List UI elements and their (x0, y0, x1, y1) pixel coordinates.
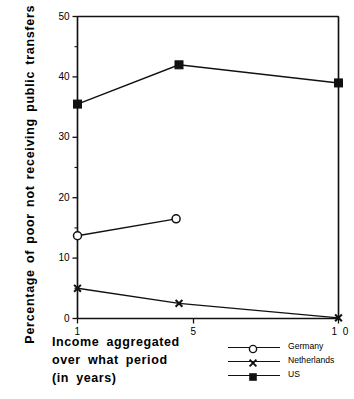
x-axis-label-line: over what period (52, 351, 232, 369)
legend-label: Netherlands (288, 356, 334, 365)
filled-square-marker (175, 61, 183, 69)
legend-label: US (288, 370, 300, 379)
x-cross-icon (247, 357, 259, 369)
filled-square-icon (247, 371, 259, 383)
series-line-germany (78, 219, 177, 236)
open-circle-marker (172, 215, 180, 223)
x-axis-label: Income aggregated over what period (in y… (52, 333, 232, 387)
filled-square-marker (74, 100, 82, 108)
series-line-netherlands (78, 288, 339, 318)
series-line-us (78, 65, 339, 104)
legend-item-netherlands[interactable]: Netherlands (228, 355, 352, 369)
legend-item-germany[interactable]: Germany (228, 341, 352, 355)
legend-label: Germany (288, 342, 323, 351)
x-axis-label-line: Income aggregated (52, 333, 232, 351)
legend-item-us[interactable]: US (228, 369, 352, 383)
chart-figure: Percentage of poor not receiving public … (0, 0, 354, 399)
legend: Germany Netherlands US (228, 341, 352, 383)
filled-square-marker (335, 79, 343, 87)
open-circle-marker (74, 232, 82, 240)
open-circle-icon (247, 343, 259, 355)
x-axis-label-line: (in years) (52, 369, 232, 387)
